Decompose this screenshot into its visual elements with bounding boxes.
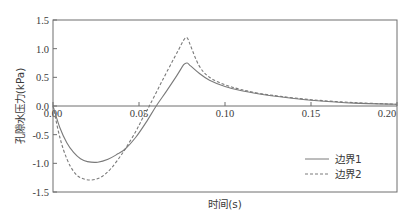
y-tick-label: -0.5 (32, 130, 49, 141)
y-tick-label: 1.5 (36, 15, 49, 26)
x-tick-label: 0.00 (44, 108, 62, 119)
x-axis-ticks: 0.000.050.100.150.20 (44, 102, 397, 119)
x-tick-label: 0.10 (216, 108, 234, 119)
y-tick-label: -1.0 (32, 158, 49, 169)
y-axis-label: 孔隙水压力(kPa) (14, 68, 26, 145)
x-tick-label: 0.20 (378, 108, 396, 119)
x-axis-label: 时间(s) (208, 198, 242, 210)
legend-label-1: 边界1 (335, 153, 362, 165)
x-tick-label: 0.15 (302, 108, 320, 119)
y-tick-label: -1.5 (32, 187, 49, 198)
y-tick-label: 1.0 (36, 44, 49, 55)
y-tick-label: 0.5 (36, 72, 49, 83)
legend-label-2: 边界2 (335, 168, 362, 180)
chart: 1.51.00.50.0-0.5-1.0-1.5 0.000.050.100.1… (0, 0, 409, 219)
legend: 边界1 边界2 (305, 153, 362, 180)
